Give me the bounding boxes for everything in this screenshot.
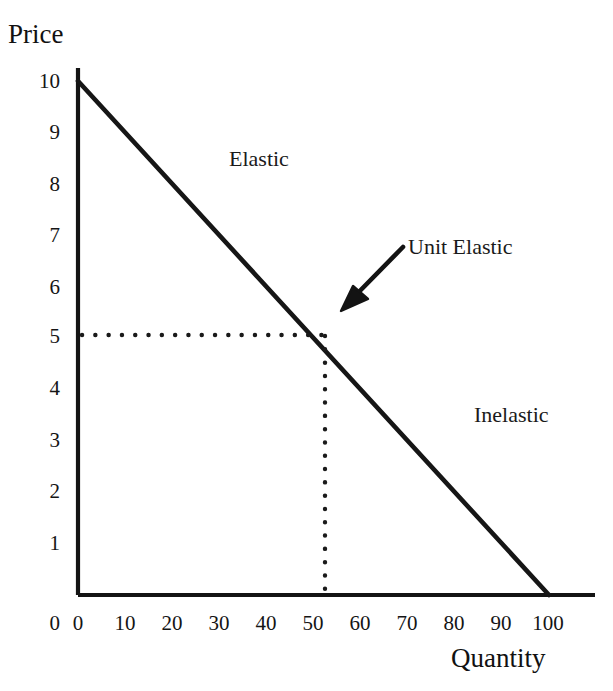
- elasticity-demand-curve-figure: Price Quantity 10 9 8 7 6 5 4 3 2 1 0 0 …: [0, 0, 613, 691]
- y-tick-label-6: 6: [26, 277, 60, 298]
- x-tick-label-20: 20: [152, 613, 192, 634]
- y-tick-label-1: 1: [26, 533, 60, 554]
- x-tick-label-10: 10: [105, 613, 145, 634]
- chart-canvas: [0, 0, 613, 691]
- x-axis-title: Quantity: [451, 645, 546, 672]
- x-tick-label-30: 30: [199, 613, 239, 634]
- x-tick-label-0: 0: [58, 613, 98, 634]
- x-tick-label-50: 50: [293, 613, 333, 634]
- unit-elastic-arrow: [341, 247, 403, 311]
- y-axis-title: Price: [8, 21, 63, 48]
- y-tick-label-5: 5: [26, 326, 60, 347]
- y-tick-label-3: 3: [26, 430, 60, 451]
- y-tick-label-4: 4: [26, 378, 60, 399]
- y-tick-label-8: 8: [26, 174, 60, 195]
- y-tick-label-2: 2: [26, 481, 60, 502]
- y-tick-label-7: 7: [26, 225, 60, 246]
- y-tick-label-0: 0: [26, 613, 60, 634]
- x-tick-label-90: 90: [481, 613, 521, 634]
- demand-curve: [78, 81, 549, 595]
- x-tick-label-100: 100: [528, 613, 568, 634]
- annotation-inelastic: Inelastic: [474, 404, 549, 426]
- annotation-unit-elastic: Unit Elastic: [408, 236, 512, 258]
- annotation-elastic: Elastic: [229, 148, 289, 170]
- x-tick-label-60: 60: [340, 613, 380, 634]
- x-tick-label-70: 70: [387, 613, 427, 634]
- x-tick-label-80: 80: [434, 613, 474, 634]
- y-tick-label-9: 9: [26, 122, 60, 143]
- y-tick-label-10: 10: [26, 71, 60, 92]
- x-tick-label-40: 40: [246, 613, 286, 634]
